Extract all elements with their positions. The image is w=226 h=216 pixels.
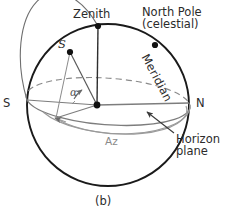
zenith-nadir-line bbox=[97, 26, 98, 105]
observer-to-north-line bbox=[97, 103, 189, 105]
star-point-marker bbox=[67, 49, 73, 55]
diagram-canvas bbox=[0, 0, 226, 216]
zenith-label: Zenith bbox=[73, 8, 110, 21]
azimuth-label: Az bbox=[105, 136, 118, 148]
azimuth-arc-outer bbox=[43, 105, 190, 134]
north-pole-label-line2: (celestial) bbox=[142, 18, 199, 31]
meridian-leader-hidden bbox=[166, 33, 172, 40]
zenith-point-marker bbox=[95, 23, 101, 29]
star-label: S bbox=[58, 38, 66, 51]
observer-point-marker bbox=[94, 102, 101, 109]
azimuth-arc-inner bbox=[57, 106, 187, 134]
altitude-angle-label: α bbox=[70, 87, 77, 99]
horizon-plane-label-line2: plane bbox=[176, 145, 208, 158]
observer-to-south-line bbox=[27, 100, 97, 105]
south-cardinal-label: S bbox=[3, 97, 10, 110]
figure-caption: (b) bbox=[95, 195, 111, 208]
celestial-sphere-figure: Zenith North Pole (celestial) Meridian S… bbox=[0, 0, 226, 216]
north-pole-point-marker bbox=[152, 42, 158, 48]
observer-to-horizon-foot-line bbox=[56, 105, 97, 118]
north-cardinal-label: N bbox=[196, 97, 205, 110]
star-altitude-drop-line bbox=[56, 52, 70, 118]
